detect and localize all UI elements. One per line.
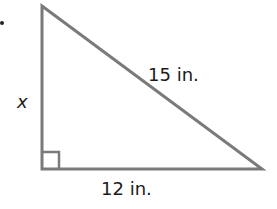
vertical-leg-label: x [16,91,28,112]
right-angle-marker [42,152,59,169]
hypotenuse-label: 15 in. [148,64,199,85]
horizontal-leg-label: 12 in. [101,178,152,199]
problem-bullet [0,21,4,25]
triangle-outline [42,6,262,169]
right-triangle-diagram: x 15 in. 12 in. [0,0,277,209]
